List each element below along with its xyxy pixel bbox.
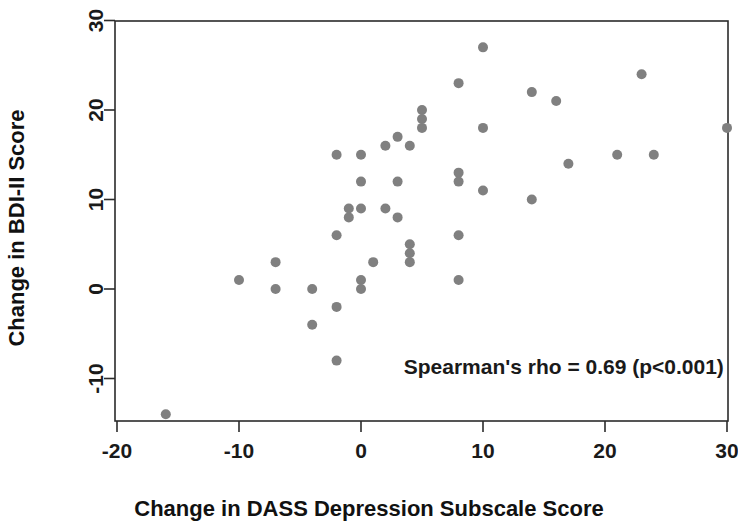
scatter-point bbox=[478, 123, 488, 133]
scatter-point bbox=[417, 123, 427, 133]
scatter-point bbox=[454, 230, 464, 240]
y-tick-label: 0 bbox=[84, 283, 107, 295]
scatter-point bbox=[405, 257, 415, 267]
scatter-point bbox=[454, 275, 464, 285]
scatter-point bbox=[637, 69, 647, 79]
scatter-point bbox=[478, 186, 488, 196]
scatter-point bbox=[454, 168, 464, 178]
scatter-point bbox=[393, 132, 403, 142]
y-axis-title: Change in BDI-II Score bbox=[4, 109, 29, 346]
scatter-point bbox=[368, 257, 378, 267]
plot-annotations: Spearman's rho = 0.69 (p<0.001) bbox=[404, 355, 724, 378]
scatter-point bbox=[380, 141, 390, 151]
scatter-point bbox=[393, 212, 403, 222]
scatter-point bbox=[161, 409, 171, 419]
scatter-point bbox=[234, 275, 244, 285]
scatter-point bbox=[417, 105, 427, 115]
scatter-point bbox=[356, 203, 366, 213]
scatter-plot-figure: -20-100102030-100102030 Spearman's rho =… bbox=[0, 0, 738, 526]
scatter-point bbox=[405, 248, 415, 258]
scatter-point bbox=[356, 275, 366, 285]
y-tick-label: 10 bbox=[84, 188, 107, 211]
scatter-point bbox=[478, 42, 488, 52]
scatter-point bbox=[356, 150, 366, 160]
scatter-point bbox=[612, 150, 622, 160]
scatter-point bbox=[527, 87, 537, 97]
scatter-point bbox=[454, 78, 464, 88]
scatter-point bbox=[380, 203, 390, 213]
scatter-point bbox=[563, 159, 573, 169]
scatter-point bbox=[405, 141, 415, 151]
scatter-point bbox=[551, 96, 561, 106]
scatter-point bbox=[405, 239, 415, 249]
correlation-annotation: Spearman's rho = 0.69 (p<0.001) bbox=[404, 355, 724, 378]
scatter-point bbox=[393, 177, 403, 187]
y-tick-label: 20 bbox=[84, 98, 107, 121]
scatter-point bbox=[332, 356, 342, 366]
x-tick-label: 20 bbox=[593, 439, 616, 462]
x-axis-title: Change in DASS Depression Subscale Score bbox=[134, 496, 603, 521]
scatter-point bbox=[344, 212, 354, 222]
scatter-point bbox=[722, 123, 732, 133]
scatter-point bbox=[332, 150, 342, 160]
scatter-point bbox=[344, 203, 354, 213]
scatter-point bbox=[649, 150, 659, 160]
scatter-point bbox=[307, 320, 317, 330]
scatter-point bbox=[527, 195, 537, 205]
scatter-point bbox=[356, 284, 366, 294]
y-tick-label: -10 bbox=[84, 363, 107, 393]
x-tick-label: 30 bbox=[715, 439, 738, 462]
x-tick-label: 10 bbox=[471, 439, 494, 462]
x-tick-label: 0 bbox=[355, 439, 367, 462]
scatter-point bbox=[454, 177, 464, 187]
x-tick-label: -10 bbox=[224, 439, 254, 462]
scatter-point bbox=[417, 114, 427, 124]
plot-canvas: -20-100102030-100102030 Spearman's rho =… bbox=[0, 0, 738, 526]
scatter-point bbox=[356, 177, 366, 187]
scatter-point bbox=[307, 284, 317, 294]
scatter-point bbox=[271, 284, 281, 294]
scatter-point bbox=[332, 230, 342, 240]
scatter-point bbox=[332, 302, 342, 312]
y-tick-label: 30 bbox=[84, 9, 107, 32]
scatter-point bbox=[271, 257, 281, 267]
x-tick-label: -20 bbox=[102, 439, 132, 462]
